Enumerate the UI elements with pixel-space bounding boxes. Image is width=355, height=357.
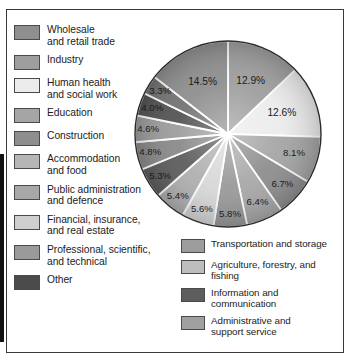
pie-slice-label: 6.7%: [271, 178, 293, 189]
legend-swatch-administrative-and-support-service: [181, 316, 205, 330]
pie-outline: [135, 41, 321, 227]
legend-label-professional-scientific-and-technical: Professional, scientific, and technical: [47, 244, 150, 267]
legend-label-education: Education: [47, 107, 92, 119]
pie-slice-label: 4.8%: [139, 146, 161, 157]
legend-right-column: Transportation and storage Agriculture, …: [181, 238, 341, 343]
pie-chart: 12.9%12.6%8.1%6.7%6.4%5.8%5.6%5.4%5.3%4.…: [134, 26, 324, 242]
pie-slice-label: 4.0%: [141, 102, 163, 113]
legend-item-information-and-communication[interactable]: Information and communication: [181, 287, 341, 309]
legend-swatch-financial-insurance-and-real-estate: [14, 215, 40, 230]
pie-slice-label: 6.4%: [247, 196, 269, 207]
legend-swatch-human-health-and-social-work: [14, 78, 40, 93]
legend-swatch-education: [14, 108, 40, 123]
legend-item-administrative-and-support-service[interactable]: Administrative and support service: [181, 315, 341, 337]
legend-label-administrative-and-support-service: Administrative and support service: [211, 315, 291, 337]
legend-label-human-health-and-social-work: Human health and social work: [47, 77, 117, 100]
legend-label-construction: Construction: [47, 130, 104, 142]
legend-label-wholesale-and-retail-trade: Wholesale and retail trade: [47, 24, 115, 47]
legend-label-other: Other: [47, 274, 73, 286]
legend-swatch-agriculture-forestry-and-fishing: [181, 260, 205, 274]
pie-chart-svg: 12.9%12.6%8.1%6.7%6.4%5.8%5.6%5.4%5.3%4.…: [134, 26, 324, 242]
legend-swatch-professional-scientific-and-technical: [14, 245, 40, 260]
pie-slice-label: 5.6%: [191, 203, 213, 214]
legend-swatch-other: [14, 275, 40, 290]
pie-slice-label: 14.5%: [188, 76, 217, 87]
legend-label-financial-insurance-and-real-estate: Financial, insurance, and real estate: [47, 214, 140, 237]
legend-label-industry: Industry: [47, 54, 83, 66]
pie-slice-label: 8.1%: [283, 147, 305, 158]
figure-page: Wholesale and retail trade Industry Huma…: [0, 0, 355, 357]
legend-label-information-and-communication: Information and communication: [211, 287, 278, 309]
legend-label-accommodation-and-food: Accommodation and food: [47, 153, 120, 176]
legend-swatch-industry: [14, 55, 40, 70]
pie-slice-label: 12.6%: [267, 107, 296, 118]
legend-label-public-administration-and-defence: Public administration and defence: [47, 184, 141, 207]
pie-slice-label: 5.4%: [167, 190, 189, 201]
legend-swatch-information-and-communication: [181, 288, 205, 302]
legend-swatch-construction: [14, 131, 40, 146]
pie-slice-label: 12.9%: [236, 75, 265, 86]
pie-slice-label: 4.6%: [137, 123, 159, 134]
legend-item-other[interactable]: Other: [14, 274, 164, 290]
pie-slice-label: 5.8%: [219, 208, 241, 219]
legend-swatch-public-administration-and-defence: [14, 185, 40, 200]
legend-label-agriculture-forestry-and-fishing: Agriculture, forestry, and fishing: [211, 259, 316, 281]
legend-item-agriculture-forestry-and-fishing[interactable]: Agriculture, forestry, and fishing: [181, 259, 341, 281]
left-edge-black-bar: [0, 154, 4, 342]
legend-item-professional-scientific-and-technical[interactable]: Professional, scientific, and technical: [14, 244, 164, 267]
legend-swatch-wholesale-and-retail-trade: [14, 25, 40, 40]
pie-slice-label: 5.3%: [149, 170, 171, 181]
legend-swatch-accommodation-and-food: [14, 154, 40, 169]
pie-slice-label: 3.3%: [149, 85, 171, 96]
